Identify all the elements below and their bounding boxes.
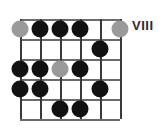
fret-line-5 [20,119,120,121]
string-line-5 [100,19,102,119]
fretboard-diagram: VIII [0,0,162,136]
dot-s1-f3 [12,61,29,78]
dot-s5-f2 [92,41,109,58]
fret-line-4 [20,99,120,101]
dot-s4-f1 [72,21,89,38]
dot-s3-f1 [52,21,69,38]
dot-s1-f1 [12,21,29,38]
dot-s2-f3 [32,61,49,78]
dot-s1-f4 [12,81,29,98]
fretboard-grid [20,19,120,119]
fret-position-label: VIII [132,19,154,32]
fret-line-1 [20,39,120,41]
dot-s3-f3 [52,61,69,78]
dot-s5-f4 [92,81,109,98]
dot-s4-f3 [72,61,89,78]
dot-s6-f1 [112,21,129,38]
dot-s3-f5 [52,101,69,118]
dot-s2-f1 [32,21,49,38]
dot-s4-f5 [72,101,89,118]
dot-s2-f4 [32,81,49,98]
